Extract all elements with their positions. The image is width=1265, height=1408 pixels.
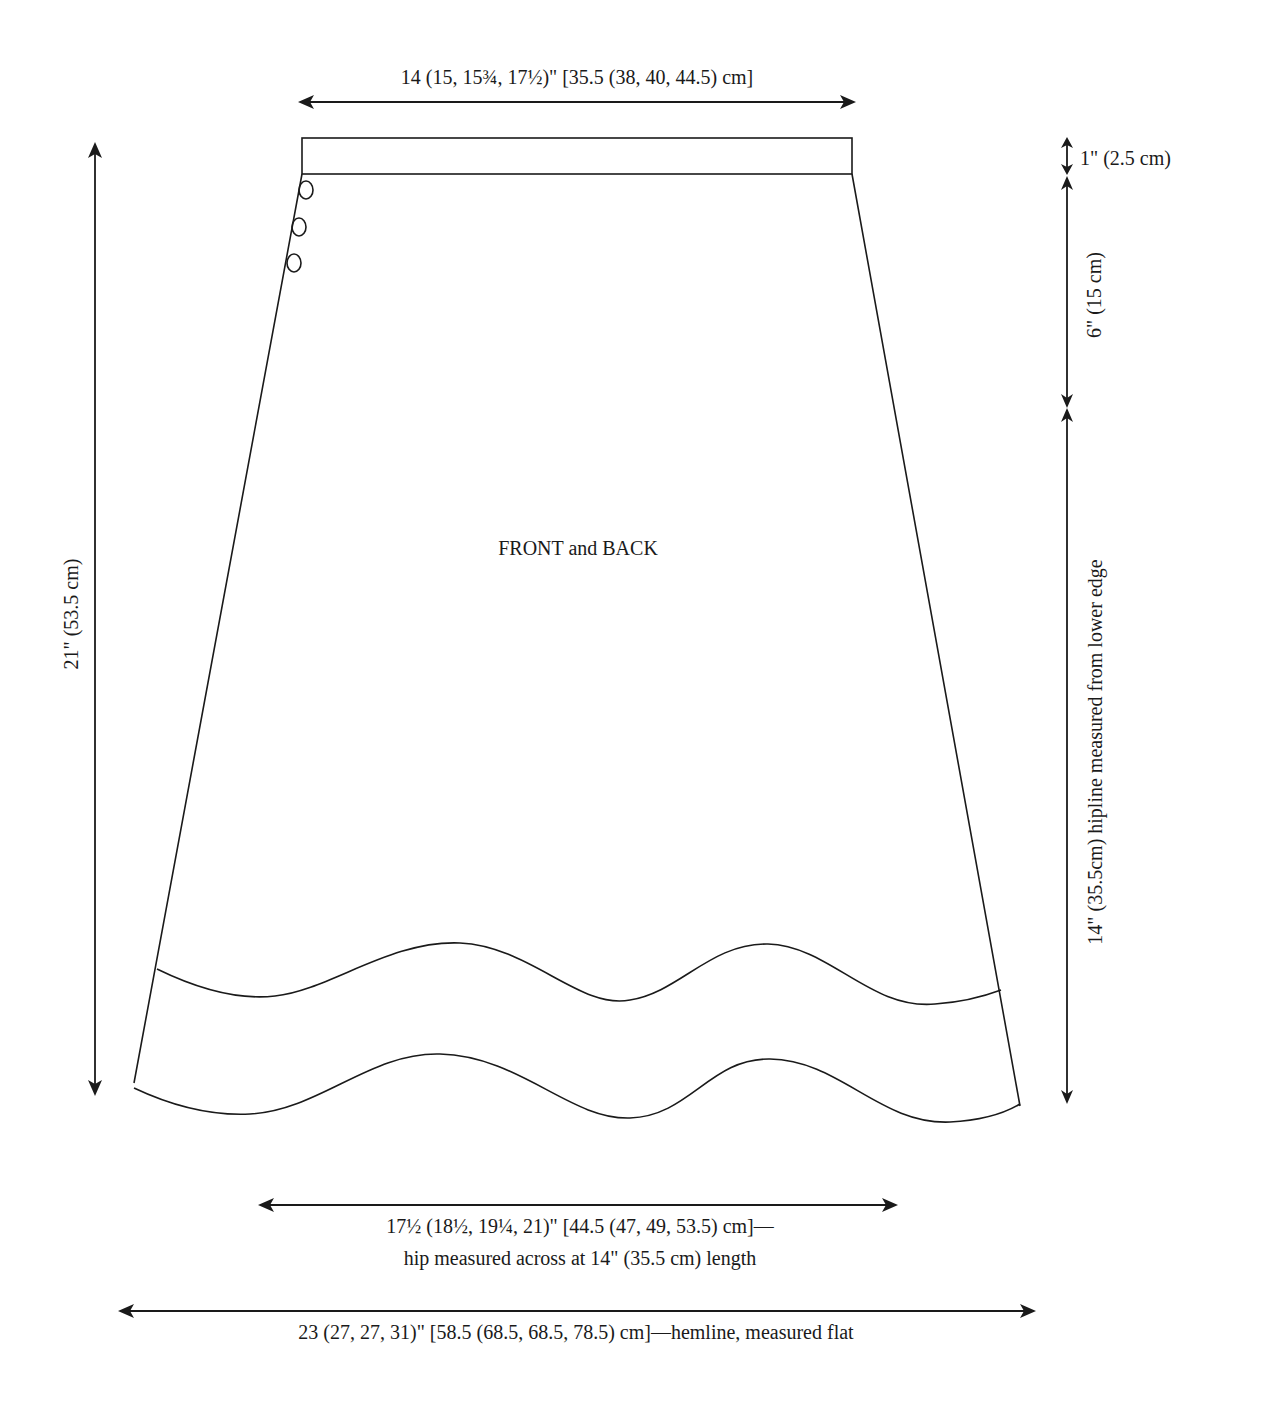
total-length-dimension: 21" (53.5 cm) bbox=[60, 142, 102, 1096]
upper-wave-border bbox=[157, 943, 1001, 1005]
hipline-length-dimension: 14" (35.5cm) hipline measured from lower… bbox=[1061, 408, 1107, 1104]
hemline-wave bbox=[134, 1054, 1020, 1122]
hem-width-dimension: 23 (27, 27, 31)" [58.5 (68.5, 68.5, 78.5… bbox=[118, 1304, 1036, 1344]
hip-width-label-line1: 17½ (18½, 19¼, 21)" [44.5 (47, 49, 53.5)… bbox=[386, 1215, 775, 1238]
upper-length-dimension: 6" (15 cm) bbox=[1061, 176, 1106, 408]
upper-length-label: 6" (15 cm) bbox=[1083, 252, 1106, 338]
hem-width-label: 23 (27, 27, 31)" [58.5 (68.5, 68.5, 78.5… bbox=[298, 1321, 854, 1344]
hip-width-dimension: 17½ (18½, 19¼, 21)" [44.5 (47, 49, 53.5)… bbox=[258, 1198, 898, 1270]
skirt-schematic: 14 (15, 15¾, 17½)" [35.5 (38, 40, 44.5) … bbox=[0, 0, 1265, 1408]
waist-width-label: 14 (15, 15¾, 17½)" [35.5 (38, 40, 44.5) … bbox=[401, 66, 754, 89]
button-icon bbox=[287, 254, 301, 272]
hip-width-label-line2: hip measured across at 14" (35.5 cm) len… bbox=[404, 1247, 757, 1270]
total-length-label: 21" (53.5 cm) bbox=[60, 559, 83, 670]
waistband-height-dimension: 1" (2.5 cm) bbox=[1061, 137, 1171, 175]
button-icon bbox=[299, 181, 313, 199]
waistband-height-label: 1" (2.5 cm) bbox=[1080, 147, 1171, 170]
piece-label: FRONT and BACK bbox=[498, 537, 658, 559]
waist-width-dimension: 14 (15, 15¾, 17½)" [35.5 (38, 40, 44.5) … bbox=[298, 66, 856, 109]
skirt-body-outline bbox=[134, 174, 1020, 1106]
button-icon bbox=[292, 218, 306, 236]
hipline-length-label: 14" (35.5cm) hipline measured from lower… bbox=[1084, 559, 1107, 944]
waistband bbox=[302, 138, 852, 174]
